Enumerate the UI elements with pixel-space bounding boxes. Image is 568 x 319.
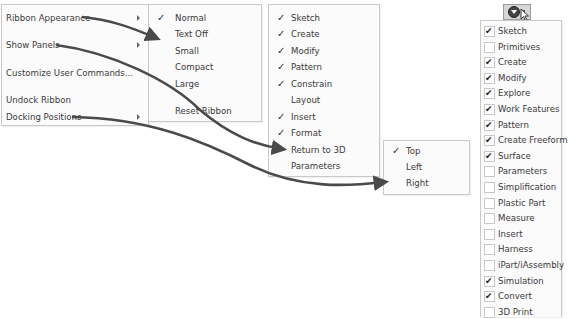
checkbox[interactable]: ✔ [484, 73, 495, 84]
menu-item-label: Constrain [291, 77, 332, 91]
menu-item-undock-ribbon[interactable]: Undock Ribbon [2, 93, 148, 107]
menu-item-top[interactable]: ✓ Top [384, 144, 469, 158]
ribbon-appearance-submenu: ✓ Normal Text Off Small Compact Large Re… [148, 4, 262, 122]
panel-checkbox-row[interactable]: Primitives [481, 40, 561, 54]
checkbox[interactable]: ✔ [484, 26, 495, 37]
checkbox-label: Simplification [498, 180, 556, 194]
panel-checkbox-row[interactable]: ✔Create [481, 55, 561, 69]
checkbox[interactable]: ✔ [484, 151, 495, 162]
checkbox[interactable] [484, 198, 495, 209]
checkmark-icon: ✔ [485, 71, 493, 85]
panel-checkbox-row[interactable]: ✔Sketch [481, 24, 561, 38]
panel-checkbox-row[interactable]: ✔Simulation [481, 274, 561, 288]
panel-checkbox-row[interactable]: Insert [481, 227, 561, 241]
menu-item-right[interactable]: Right [384, 176, 469, 190]
menu-item-label: Pattern [291, 60, 322, 74]
checkmark-icon: ✔ [485, 55, 493, 69]
panel-checkbox-row[interactable]: ✔Convert [481, 289, 561, 303]
panel-checkbox-row[interactable]: iPart/iAssembly [481, 258, 561, 272]
panel-checkbox-row[interactable]: Harness [481, 242, 561, 256]
menu-item-small[interactable]: Small [149, 44, 261, 58]
checkbox-label: Primitives [498, 40, 540, 54]
menu-item-label: Parameters [291, 159, 340, 173]
panel-checkbox-row[interactable]: ✔Create Freeform [481, 133, 561, 147]
checkbox[interactable]: ✔ [484, 120, 495, 131]
checkbox-label: Explore [498, 86, 530, 100]
menu-item-label: Format [291, 126, 321, 140]
menu-item-compact[interactable]: Compact [149, 60, 261, 74]
checkbox-label: Modify [498, 71, 526, 85]
menu-item-sketch[interactable]: ✓ Sketch [269, 11, 379, 25]
checkbox[interactable]: ✔ [484, 291, 495, 302]
menu-item-label: Text Off [175, 27, 208, 41]
menu-item-modify[interactable]: ✓ Modify [269, 44, 379, 58]
checkmark-icon: ✓ [392, 144, 400, 158]
checkmark-icon: ✓ [277, 126, 285, 140]
menu-item-reset-ribbon[interactable]: Reset Ribbon [149, 104, 261, 118]
panel-checkbox-row[interactable]: ✔Work Features [481, 102, 561, 116]
checkbox[interactable] [484, 260, 495, 271]
checkbox[interactable]: ✔ [484, 88, 495, 99]
checkmark-icon: ✔ [485, 118, 493, 132]
panel-visibility-dropdown: ✔SketchPrimitives✔Create✔Modify✔Explore✔… [480, 20, 562, 317]
menu-item-large[interactable]: Large [149, 77, 261, 91]
menu-item-label: Reset Ribbon [175, 104, 232, 118]
checkbox[interactable] [484, 42, 495, 53]
panel-checkbox-row[interactable]: ✔Pattern [481, 118, 561, 132]
menu-item-parameters[interactable]: Parameters [269, 159, 379, 173]
checkmark-icon: ✓ [277, 27, 285, 41]
menu-item-text-off[interactable]: Text Off [149, 27, 261, 41]
menu-item-customize-user-commands[interactable]: Customize User Commands... [2, 66, 148, 80]
menu-item-create[interactable]: ✓ Create [269, 27, 379, 41]
panel-checkbox-row[interactable]: Plastic Part [481, 196, 561, 210]
panel-checkbox-row[interactable]: 3D Print [481, 305, 561, 319]
menu-item-layout[interactable]: Layout [269, 93, 379, 107]
panel-checkbox-row[interactable]: Parameters [481, 164, 561, 178]
checkmark-icon: ✔ [485, 149, 493, 163]
checkbox[interactable] [484, 213, 495, 224]
checkbox[interactable] [484, 166, 495, 177]
docking-positions-submenu: ✓ Top Left Right [383, 140, 470, 195]
menu-item-normal[interactable]: ✓ Normal [149, 11, 261, 25]
panel-checkbox-row[interactable]: Measure [481, 211, 561, 225]
checkbox[interactable]: ✔ [484, 57, 495, 68]
menu-item-return-to-3d[interactable]: Return to 3D [269, 143, 379, 157]
menu-item-label: Layout [291, 93, 320, 107]
menu-item-label: Show Panels [6, 38, 60, 52]
checkmark-icon: ✔ [485, 289, 493, 303]
panel-checkbox-row[interactable]: ✔Modify [481, 71, 561, 85]
menu-item-ribbon-appearance[interactable]: Ribbon Appearance [2, 11, 148, 25]
checkbox-label: Sketch [498, 24, 527, 38]
checkbox[interactable]: ✔ [484, 276, 495, 287]
panel-checkbox-row[interactable]: ✔Surface [481, 149, 561, 163]
submenu-arrow-icon [137, 15, 140, 21]
checkmark-icon: ✔ [485, 274, 493, 288]
checkbox-label: Parameters [498, 164, 547, 178]
checkmark-icon: ✓ [277, 11, 285, 25]
menu-item-docking-positions[interactable]: Docking Positions [2, 110, 148, 124]
menu-item-left[interactable]: Left [384, 160, 469, 174]
menu-item-show-panels[interactable]: Show Panels [2, 38, 148, 52]
ribbon-context-menu: Ribbon Appearance Show Panels Customize … [1, 4, 149, 126]
checkbox[interactable] [484, 182, 495, 193]
checkbox-label: Pattern [498, 118, 529, 132]
menu-item-pattern[interactable]: ✓ Pattern [269, 60, 379, 74]
checkmark-icon: ✔ [485, 24, 493, 38]
circle-down-arrow-icon [508, 6, 520, 18]
panel-checkbox-row[interactable]: Simplification [481, 180, 561, 194]
checkmark-icon: ✔ [485, 102, 493, 116]
menu-item-label: Customize User Commands... [6, 66, 133, 80]
checkbox[interactable] [484, 244, 495, 255]
checkmark-icon: ✔ [485, 86, 493, 100]
checkbox[interactable] [484, 229, 495, 240]
menu-item-format[interactable]: ✓ Format [269, 126, 379, 140]
menu-item-insert[interactable]: ✓ Insert [269, 110, 379, 124]
panel-checkbox-row[interactable]: ✔Explore [481, 86, 561, 100]
menu-item-label: Undock Ribbon [6, 93, 71, 107]
menu-item-constrain[interactable]: ✓ Constrain [269, 77, 379, 91]
checkbox[interactable] [484, 307, 495, 318]
checkbox[interactable]: ✔ [484, 135, 495, 146]
checkbox-label: Create Freeform [498, 133, 568, 147]
checkbox[interactable]: ✔ [484, 104, 495, 115]
checkmark-icon: ✓ [277, 60, 285, 74]
